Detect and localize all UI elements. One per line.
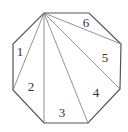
region-label-6: 6 (83, 16, 90, 29)
region-label-2: 2 (28, 80, 35, 93)
region-label-1: 1 (17, 45, 24, 58)
region-label-4: 4 (93, 86, 100, 99)
diagonal-to-vertex-4 (44, 13, 88, 123)
region-label-3: 3 (59, 106, 66, 119)
octagon-outline (13, 13, 121, 123)
region-label-5: 5 (102, 51, 109, 64)
octagon-diagram: 1 2 3 4 5 6 (0, 0, 128, 132)
